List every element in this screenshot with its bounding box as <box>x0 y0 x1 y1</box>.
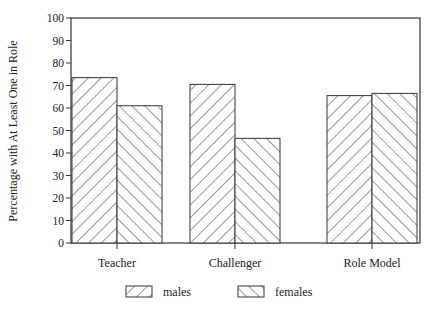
y-tick-label: 100 <box>47 12 65 24</box>
x-category-label: Teacher <box>98 256 136 270</box>
y-tick-label: 10 <box>53 215 65 227</box>
y-tick-label: 80 <box>53 57 65 69</box>
x-category-label: Challenger <box>209 256 262 270</box>
y-tick-label: 20 <box>53 192 65 204</box>
bar-males-role-model <box>327 96 372 243</box>
bar-males-challenger <box>190 84 235 243</box>
legend-label-males: males <box>163 285 191 299</box>
bar-males-teacher <box>72 78 117 243</box>
bar-chart: 0102030405060708090100 TeacherChallenger… <box>0 0 436 314</box>
bar-females-challenger <box>235 138 280 243</box>
y-tick-label: 90 <box>53 35 65 47</box>
legend: malesfemales <box>126 285 313 299</box>
bar-females-role-model <box>372 93 417 243</box>
legend-swatch-females <box>238 286 264 297</box>
y-tick-label: 30 <box>53 170 65 182</box>
y-tick-label: 50 <box>53 125 65 137</box>
y-axis: 0102030405060708090100 <box>47 12 71 249</box>
legend-swatch-males <box>126 286 152 297</box>
y-tick-label: 60 <box>53 102 65 114</box>
y-tick-label: 70 <box>53 80 65 92</box>
plot-area <box>71 18 420 243</box>
x-axis: TeacherChallengerRole Model <box>98 243 401 270</box>
y-tick-label: 0 <box>58 237 64 249</box>
y-tick-label: 40 <box>53 147 65 159</box>
x-category-label: Role Model <box>344 256 402 270</box>
legend-label-females: females <box>275 285 313 299</box>
bar-females-teacher <box>117 106 162 243</box>
y-axis-title: Percentage with At Least One in Role <box>6 40 20 221</box>
